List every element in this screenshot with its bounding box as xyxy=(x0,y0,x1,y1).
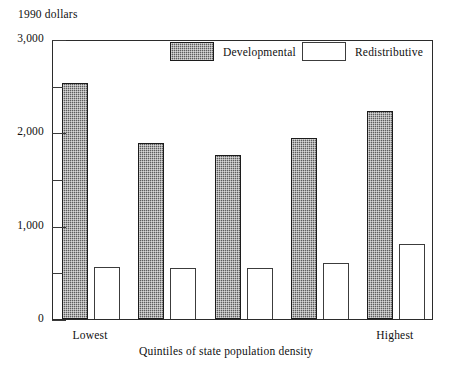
y-axis-tick-label: 1,000 xyxy=(0,219,44,231)
bar-redistributive xyxy=(323,263,349,319)
bar-redistributive xyxy=(170,268,196,319)
bar-chart-figure: 1990 dollars 01,0002,0003,000 LowestHigh… xyxy=(0,0,452,368)
x-axis-category-label: Lowest xyxy=(32,329,148,341)
y-axis-tick-minor xyxy=(52,87,63,88)
bar-developmental xyxy=(62,83,88,319)
bar-developmental xyxy=(291,138,317,319)
bar-developmental xyxy=(367,111,393,319)
bar-developmental xyxy=(138,143,164,319)
x-axis-category-label: Highest xyxy=(337,329,452,341)
legend-label-developmental: Developmental xyxy=(223,46,296,58)
legend-label-redistributive: Redistributive xyxy=(355,46,423,58)
legend-item-developmental: Developmental xyxy=(170,42,296,61)
y-axis-tick-major xyxy=(52,227,66,228)
bar-redistributive xyxy=(399,244,425,319)
y-axis-tick-label: 2,000 xyxy=(0,125,44,137)
bar-redistributive xyxy=(94,267,120,319)
plot-area xyxy=(52,40,433,320)
y-axis-tick-major xyxy=(52,133,66,134)
legend-swatch-redistributive-icon xyxy=(302,42,346,61)
y-axis-tick-major xyxy=(52,40,66,41)
bar-redistributive xyxy=(247,268,273,319)
y-axis-tick-minor xyxy=(52,180,63,181)
y-axis-tick-label: 0 xyxy=(0,312,44,324)
x-axis-caption: Quintiles of state population density xyxy=(0,345,452,357)
y-axis-unit-label: 1990 dollars xyxy=(18,8,78,20)
y-axis-tick-minor xyxy=(52,273,63,274)
y-axis-tick-label: 3,000 xyxy=(0,32,44,44)
y-axis-tick-major xyxy=(52,320,66,321)
legend-item-redistributive: Redistributive xyxy=(302,42,423,61)
legend-swatch-developmental-icon xyxy=(170,42,214,61)
bars-layer xyxy=(53,41,432,319)
bar-developmental xyxy=(215,155,241,319)
